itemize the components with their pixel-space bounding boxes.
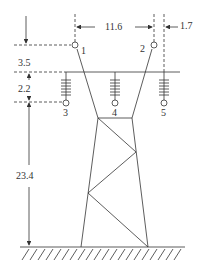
tower-leg-right xyxy=(132,118,148,247)
dim-23-4: 23.4 xyxy=(16,171,34,181)
conductor-label-4: 4 xyxy=(112,108,117,118)
insulator-5 xyxy=(159,72,169,100)
conductor-5 xyxy=(161,100,167,106)
insulator-3 xyxy=(61,72,71,100)
conductor-3 xyxy=(63,100,69,106)
conductor-1 xyxy=(72,42,78,48)
dim-1-7: 1.7 xyxy=(180,21,193,31)
conductor-4 xyxy=(112,100,118,106)
ground-hatch xyxy=(22,249,181,260)
tower-leg-left xyxy=(81,118,98,247)
insulator-4 xyxy=(110,72,120,100)
tower-lattice xyxy=(88,118,148,247)
conductor-label-2: 2 xyxy=(140,44,145,54)
conductor-label-3: 3 xyxy=(63,108,68,118)
dim-3-5: 3.5 xyxy=(18,58,31,68)
conductor-label-1: 1 xyxy=(81,46,86,56)
tower-arm-left xyxy=(77,49,98,118)
dim-11-6: 11.6 xyxy=(105,22,122,32)
dim-2-2: 2.2 xyxy=(18,84,31,94)
conductor-2 xyxy=(151,42,157,48)
tower-arm-right xyxy=(132,49,152,118)
tower-diagram xyxy=(0,0,203,274)
conductor-label-5: 5 xyxy=(161,108,166,118)
